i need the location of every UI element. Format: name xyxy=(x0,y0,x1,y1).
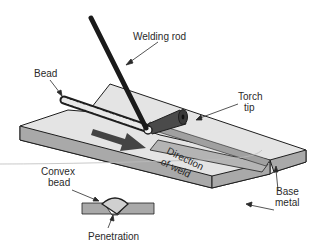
label-torch-tip-2: tip xyxy=(244,102,255,113)
label-bead: Bead xyxy=(34,68,57,79)
label-convex-bead-1: Convex xyxy=(41,166,75,177)
label-convex-bead-2: bead xyxy=(48,177,70,188)
label-welding-rod: Welding rod xyxy=(133,31,186,42)
label-base-metal-1: Base xyxy=(276,186,299,197)
label-torch-tip-1: Torch xyxy=(238,91,262,102)
label-base-metal-2: metal xyxy=(275,197,299,208)
label-penetration: Penetration xyxy=(88,231,139,242)
